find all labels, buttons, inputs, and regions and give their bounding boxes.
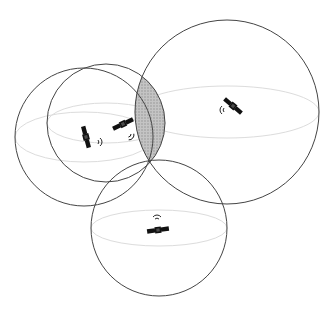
- sphere-equators: [15, 86, 319, 246]
- diagram: Satellite trilateration - intersection o…: [0, 0, 333, 310]
- satellite-icon: [220, 96, 243, 115]
- satellite-icon: [147, 215, 170, 235]
- satellite-icon: [80, 126, 102, 149]
- trilateration-diagram: [0, 0, 333, 310]
- satellite-icon: [112, 116, 136, 141]
